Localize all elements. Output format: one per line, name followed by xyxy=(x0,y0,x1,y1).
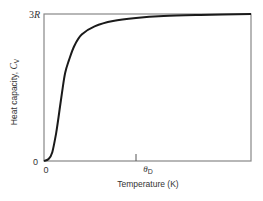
y-tick-zero: 0 xyxy=(33,157,38,167)
y-tick-3r: 3R xyxy=(29,9,40,20)
x-axis-label: Temperature (K) xyxy=(117,179,179,189)
x-tick-zero: 0 xyxy=(43,165,48,175)
y-axis-label: Heat capacity, CV xyxy=(9,58,20,125)
heat-capacity-chart: 3R 0 0 θD Temperature (K) Heat capacity,… xyxy=(0,0,263,201)
data-curve xyxy=(44,14,251,161)
plot-frame xyxy=(44,14,251,161)
x-tick-theta-d: θD xyxy=(143,164,152,175)
